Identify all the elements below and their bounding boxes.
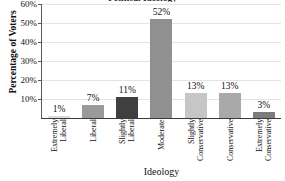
x-tick-label-line: Extremely (255, 119, 264, 167)
bar-slot: 11% (110, 4, 144, 118)
bar-value-label: 1% (53, 104, 66, 114)
y-tick-label: 20% (21, 75, 38, 85)
x-tick-label: Liberal (76, 119, 110, 167)
bar[interactable] (150, 19, 172, 118)
x-tick-label-rotated: Conservative (225, 119, 234, 167)
bar-value-label: 7% (87, 93, 100, 103)
bar-slot: 13% (179, 4, 213, 118)
x-tick-label-rotated: Liberal (89, 119, 98, 167)
x-tick-label: Moderate (144, 119, 178, 167)
y-tick-label: 40% (21, 37, 38, 47)
x-tick-label: Conservative (213, 119, 247, 167)
x-tick-label-line: Slightly (118, 119, 127, 167)
x-tick-label-rotated: SlightlyConservative (187, 119, 205, 167)
x-tick-label-line: Liberal (89, 119, 98, 167)
x-tick-label-rotated: SlightlyLiberal (118, 119, 136, 167)
bar-chart: Political Ideology Percentage of Voters … (0, 0, 285, 181)
x-tick-label-rotated: Moderate (157, 119, 166, 167)
x-axis-title: Ideology (42, 166, 281, 177)
x-tick-label-line: Conservative (225, 119, 234, 167)
x-tick-label-rotated: ExtremelyConservative (255, 119, 273, 167)
bar-slot: 1% (42, 4, 76, 118)
bar[interactable] (185, 93, 207, 118)
bar[interactable] (116, 97, 138, 118)
bars-group: 1%7%11%52%13%13%3% (42, 4, 281, 118)
bar-value-label: 13% (221, 81, 238, 91)
y-tick-label: 50% (21, 18, 38, 28)
x-tick-label-rotated: ExtremelyLiberal (50, 119, 68, 167)
bar[interactable] (48, 116, 70, 118)
bar-value-label: 11% (119, 85, 136, 95)
y-tick-label: 10% (21, 94, 38, 104)
bar[interactable] (253, 112, 275, 118)
bar-slot: 52% (144, 4, 178, 118)
bar-value-label: 52% (153, 7, 170, 17)
x-tick-label: SlightlyLiberal (110, 119, 144, 167)
x-tick-label-line: Liberal (59, 119, 68, 167)
x-axis-tick-labels: ExtremelyLiberalLiberalSlightlyLiberalMo… (42, 119, 281, 167)
y-tick-label: 30% (21, 56, 38, 66)
plot-area: 10%20%30%40%50%60% 1%7%11%52%13%13%3% (42, 4, 281, 118)
x-tick-label-line: Extremely (50, 119, 59, 167)
x-tick-label-line: Moderate (157, 119, 166, 167)
x-tick-label: ExtremelyLiberal (42, 119, 76, 167)
chart-title: Political Ideology (0, 0, 285, 2)
bar-value-label: 13% (187, 81, 204, 91)
x-tick-label: ExtremelyConservative (247, 119, 281, 167)
x-tick-label-line: Conservative (196, 119, 205, 167)
bar[interactable] (82, 105, 104, 118)
y-axis-title: Percentage of Voters (8, 0, 18, 112)
x-tick-label-line: Slightly (187, 119, 196, 167)
y-tick-label: 60% (21, 0, 38, 9)
bar-slot: 13% (213, 4, 247, 118)
x-tick-label: SlightlyConservative (179, 119, 213, 167)
bar-value-label: 3% (258, 100, 271, 110)
bar-slot: 7% (76, 4, 110, 118)
x-tick-label-line: Liberal (127, 119, 136, 167)
x-tick-label-line: Conservative (264, 119, 273, 167)
bar-slot: 3% (247, 4, 281, 118)
bar[interactable] (219, 93, 241, 118)
